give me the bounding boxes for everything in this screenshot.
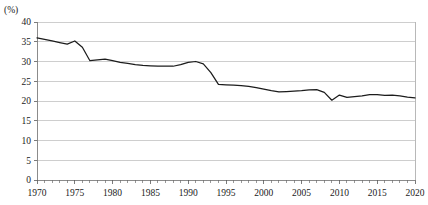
x-tick-label-1980: 1980 <box>103 188 122 198</box>
x-tick-label-1995: 1995 <box>217 188 236 198</box>
x-tick-label-2015: 2015 <box>368 188 387 198</box>
chart-canvas: 0510152025303540 19701975198019851990199… <box>0 0 428 205</box>
x-axis <box>37 180 415 184</box>
y-tick-label-40: 40 <box>22 17 32 27</box>
x-tick-label-1970: 1970 <box>28 188 47 198</box>
x-tick-label-2005: 2005 <box>292 188 311 198</box>
y-tick-label-25: 25 <box>22 77 32 87</box>
y-tick-label-0: 0 <box>26 175 31 185</box>
y-tick-label-5: 5 <box>26 156 31 166</box>
x-tick-label-1975: 1975 <box>65 188 84 198</box>
x-tick-label-1990: 1990 <box>179 188 198 198</box>
series-line-share <box>37 38 415 100</box>
y-tick-label-30: 30 <box>22 57 32 67</box>
y-tick-label-35: 35 <box>22 37 32 47</box>
y-tick-labels: 0510152025303540 <box>22 17 32 185</box>
x-tick-label-1985: 1985 <box>141 188 160 198</box>
x-tick-label-2020: 2020 <box>406 188 425 198</box>
y-tick-label-15: 15 <box>22 116 32 126</box>
y-tick-label-20: 20 <box>22 96 32 106</box>
gridlines-group <box>37 22 415 160</box>
y-tick-label-10: 10 <box>22 136 32 146</box>
line-chart-figure: 0510152025303540 19701975198019851990199… <box>0 0 428 205</box>
data-series-group <box>37 38 415 100</box>
x-tick-label-2010: 2010 <box>330 188 349 198</box>
y-axis-unit-label: (%) <box>4 5 18 16</box>
x-tick-label-2000: 2000 <box>254 188 273 198</box>
y-axis <box>34 22 37 180</box>
x-tick-labels: 1970197519801985199019952000200520102015… <box>28 188 425 198</box>
